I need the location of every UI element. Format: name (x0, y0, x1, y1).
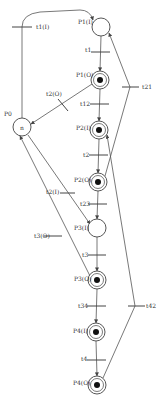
label-t23: t23 (80, 200, 90, 207)
label-P2O: P2(O) (74, 176, 91, 183)
label-t12: t12 (80, 100, 90, 107)
svg-text:n: n (20, 124, 24, 131)
label-t3O: t3(O) (34, 232, 50, 239)
label-P1I: P1(I) (78, 18, 93, 25)
arcs (20, 10, 135, 378)
label-P1O: P1(O) (76, 71, 93, 78)
label-t1I: t1(I) (36, 23, 49, 30)
label-P4I: P4(I) (73, 327, 88, 334)
label-t42: t42 (146, 302, 156, 309)
label-P2I: P2(I) (76, 124, 91, 131)
label-t2O: t2(O) (46, 90, 62, 97)
label-P3O: P3(O) (74, 275, 91, 282)
label-t2: t2 (83, 151, 89, 158)
petri-net-diagram: n P0 P1(I) P1(O) P2(I) P2(O) P3(I) P3(O)… (0, 0, 162, 400)
label-t34: t34 (78, 302, 88, 309)
place-P0: n (13, 118, 31, 136)
label-P4O: P4(O) (73, 379, 90, 386)
label-t4: t4 (81, 355, 87, 362)
labels: P0 P1(I) P1(O) P2(I) P2(O) P3(I) P3(O) P… (4, 18, 156, 386)
label-P0: P0 (4, 110, 12, 117)
places: n (13, 18, 110, 394)
place-P4O (88, 376, 106, 394)
place-P4I (87, 323, 105, 341)
label-P3I: P3(I) (74, 224, 89, 231)
place-P1O (91, 71, 109, 89)
label-t21: t21 (142, 83, 152, 90)
label-t1: t1 (85, 46, 91, 53)
label-t2I: t2(I) (46, 188, 59, 195)
place-P3I (88, 219, 106, 237)
place-P2O (89, 173, 107, 191)
place-P1I (92, 18, 110, 36)
label-t3: t3 (82, 251, 88, 258)
place-P2I (90, 121, 108, 139)
